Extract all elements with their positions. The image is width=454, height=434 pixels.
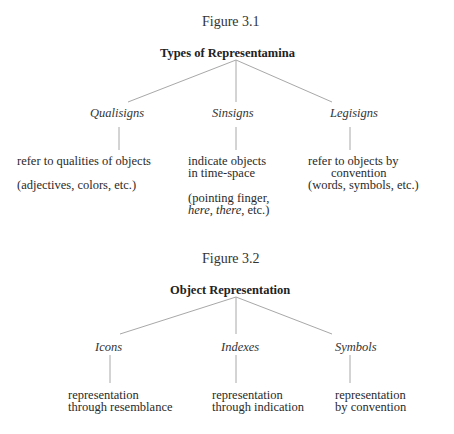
symbols-description-line2: by convention <box>335 401 406 413</box>
figure-title: Object Representation <box>170 283 290 298</box>
node-legisigns: Legisigns <box>330 106 378 121</box>
icons-description-line2: through resemblance <box>68 401 172 413</box>
node-icons: Icons <box>95 340 122 355</box>
connector-lines <box>0 0 454 434</box>
node-qualisigns: Qualisigns <box>90 106 144 121</box>
qualisigns-examples: (adjectives, colors, etc.) <box>17 179 136 191</box>
qualisigns-description: refer to qualities of objects <box>17 155 151 167</box>
legisigns-examples: (words, symbols, etc.) <box>308 179 419 191</box>
indexes-description-line2: through indication <box>212 401 304 413</box>
figure-title: Types of Representamina <box>160 46 295 61</box>
node-indexes: Indexes <box>221 340 259 355</box>
node-sinsigns: Sinsigns <box>212 106 254 121</box>
sinsigns-description-line2: in time-space <box>188 167 255 179</box>
sinsigns-examples-line2: here, there, etc.) <box>188 204 269 216</box>
node-symbols: Symbols <box>335 340 377 355</box>
figure-label: Figure 3.2 <box>202 251 260 267</box>
figure-label: Figure 3.1 <box>202 14 260 30</box>
